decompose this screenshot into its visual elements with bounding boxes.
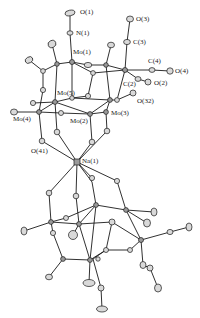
label-o32: O(32)	[137, 98, 154, 105]
atom-o41	[39, 138, 45, 144]
atom-o4	[167, 68, 173, 74]
atom-mo2	[88, 112, 93, 117]
atom-o	[91, 71, 96, 76]
atom-o	[73, 193, 79, 199]
atom-o-bridge	[84, 62, 92, 67]
atom-mo3	[104, 110, 109, 115]
atom-o	[46, 190, 52, 196]
atom-o3	[127, 16, 134, 22]
molecular-structure-figure: O(1) N(1) Mo(1) O(3) C(3) C(4) O(4) C(2)…	[0, 0, 200, 318]
atom-mo	[94, 203, 99, 208]
label-na1: Na(1)	[82, 158, 98, 165]
atom-o-terminal	[83, 280, 95, 287]
atom-o	[115, 98, 120, 103]
atom-o-terminal	[46, 274, 53, 280]
atom-mo1	[70, 60, 75, 65]
atom-o-terminal	[151, 208, 157, 216]
ortep-drawing	[0, 0, 200, 318]
atom-o-terminal	[21, 227, 27, 235]
label-n1: N(1)	[76, 30, 89, 37]
label-c3: C(3)	[133, 39, 146, 46]
atom-o2	[145, 79, 151, 85]
label-mo3: Mo(3)	[111, 110, 129, 117]
atom-o	[41, 69, 46, 74]
atom-mo	[124, 208, 129, 213]
atom-mo	[123, 68, 128, 73]
atom-mo	[104, 63, 109, 68]
atom-o	[147, 265, 153, 271]
atom-mo	[77, 222, 82, 227]
atom-c4	[149, 68, 155, 73]
atom-c	[140, 262, 146, 269]
atom-c	[144, 219, 151, 227]
atom-o	[155, 284, 162, 292]
atom-mo5	[53, 100, 58, 105]
label-mo2: Mo(2)	[70, 118, 88, 125]
atom-mo	[55, 62, 60, 67]
atom-c3	[124, 39, 131, 44]
label-o41: O(41)	[31, 148, 48, 155]
label-mo4: Mo(4)	[13, 116, 31, 123]
label-o2: O(2)	[154, 80, 167, 87]
lower-cluster-bonds	[24, 181, 189, 309]
atom-o	[89, 175, 94, 180]
atom-mo	[108, 98, 113, 103]
atom-c	[167, 229, 173, 234]
atom-o	[96, 257, 100, 261]
atom-o	[114, 178, 119, 183]
atom-o-terminal	[97, 306, 108, 312]
label-c4: C(4)	[148, 58, 161, 65]
atom-o	[109, 219, 115, 225]
atom-o	[186, 223, 192, 231]
atom-o	[64, 216, 69, 221]
atom-o1	[65, 9, 76, 16]
atom-o	[61, 257, 66, 262]
label-mo5: Mo(5)	[57, 90, 75, 97]
atom-mo	[139, 238, 144, 243]
atom-o-large	[69, 231, 78, 240]
label-o4: O(4)	[175, 68, 188, 75]
atom-o	[85, 93, 90, 98]
atom-o	[104, 248, 109, 253]
atom-mo4	[37, 110, 42, 115]
atom-o	[104, 128, 110, 134]
atom-n	[98, 285, 104, 291]
label-mo1: Mo(1)	[73, 49, 91, 56]
atom-mo	[88, 258, 93, 263]
atom-n1	[67, 31, 73, 35]
atom-o	[50, 230, 55, 235]
atom-o32	[130, 90, 136, 96]
atom-mo	[49, 220, 54, 225]
label-o3: O(3)	[136, 16, 149, 23]
label-c2: C(2)	[123, 81, 136, 88]
atoms	[11, 9, 193, 312]
label-o1: O(1)	[80, 9, 93, 16]
atom-o-terminal	[47, 39, 57, 49]
atom-o	[59, 111, 64, 116]
atom-o	[89, 139, 95, 145]
atom-o	[54, 129, 60, 135]
upper-cluster-bonds	[14, 13, 170, 142]
atom-o	[128, 248, 133, 253]
atom-na1	[74, 159, 80, 165]
atom-o-terminal	[108, 42, 115, 48]
atom-o	[40, 87, 45, 92]
atom-o	[30, 100, 35, 105]
